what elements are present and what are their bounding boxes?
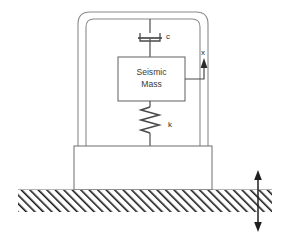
ground-motion-arrowhead-down	[254, 222, 262, 232]
seismic-mass-label-line2: Mass	[141, 79, 162, 89]
spring-label: k	[168, 120, 173, 129]
diagram-canvas: c Seismic Mass x k	[0, 0, 290, 233]
ground-motion-arrowhead-up	[254, 170, 262, 180]
displacement-arrowhead	[201, 58, 208, 68]
seismic-mass-accelerometer-diagram: c Seismic Mass x k	[0, 0, 290, 233]
seismic-mass-label-line1: Seismic	[136, 67, 167, 77]
damper-label: c	[166, 32, 170, 41]
coil-spring	[141, 107, 159, 133]
base-pedestal	[74, 146, 212, 190]
displacement-label: x	[201, 48, 205, 57]
hatched-ground	[18, 190, 272, 212]
